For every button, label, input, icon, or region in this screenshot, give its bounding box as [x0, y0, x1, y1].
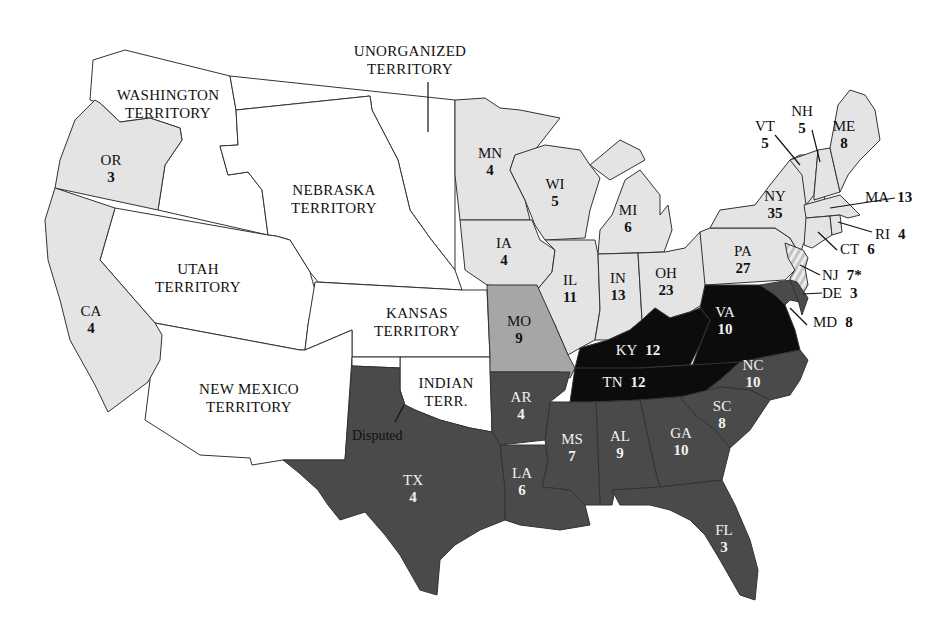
label-or: OR3: [101, 152, 122, 186]
label-oh: OH23: [655, 265, 677, 299]
label-il: IL11: [563, 272, 577, 306]
label-nc: NC10: [743, 357, 764, 391]
callout-ri: RI4: [875, 226, 906, 243]
territory-label-utah: UTAH TERRITORY: [155, 260, 241, 296]
state-ri: [830, 215, 842, 235]
label-pa: PA27: [734, 243, 752, 277]
callout-de: DE3: [822, 285, 858, 302]
label-in: IN13: [610, 270, 626, 304]
label-sc: SC8: [713, 398, 731, 432]
territory-label-nebraska: NEBRASKA TERRITORY: [291, 181, 377, 217]
label-me: ME8: [833, 118, 856, 152]
label-ky: KY12: [616, 342, 661, 359]
state-fl: [612, 480, 758, 600]
label-fl: FL3: [715, 522, 733, 556]
label-la: LA6: [512, 465, 532, 499]
territory-label-indian: INDIAN TERR.: [418, 374, 473, 410]
label-mi: MI6: [619, 202, 637, 236]
label-al: AL9: [610, 428, 630, 462]
label-nh: NH5: [791, 103, 813, 137]
territory-label-washington: WASHINGTON TERRITORY: [117, 86, 220, 122]
label-ny: NY35: [764, 188, 786, 222]
territory-label-unorganized: UNORGANIZED TERRITORY: [354, 42, 466, 78]
label-mo: MO9: [507, 313, 531, 347]
callout-md: MD8: [813, 314, 853, 331]
label-tx: TX4: [403, 472, 423, 506]
label-va: VA10: [715, 304, 735, 338]
disputed-label: Disputed: [352, 428, 403, 444]
label-ms: MS7: [561, 431, 583, 465]
label-ar: AR4: [511, 389, 532, 423]
label-ca: CA4: [81, 303, 102, 337]
state-mi: [590, 140, 672, 254]
callout-ct: CT6: [840, 241, 875, 258]
callout-ma: MA13: [865, 189, 912, 206]
territory-label-new-mexico: NEW MEXICO TERRITORY: [199, 380, 299, 416]
territory-label-kansas: KANSAS TERRITORY: [374, 304, 460, 340]
label-vt: VT5: [755, 118, 775, 152]
label-ia: IA4: [496, 235, 512, 269]
label-wi: WI5: [545, 176, 564, 210]
label-mn: MN4: [478, 145, 502, 179]
callout-nj: NJ7*: [822, 267, 862, 284]
label-tn: TN12: [603, 374, 646, 391]
label-ga: GA10: [670, 425, 692, 459]
